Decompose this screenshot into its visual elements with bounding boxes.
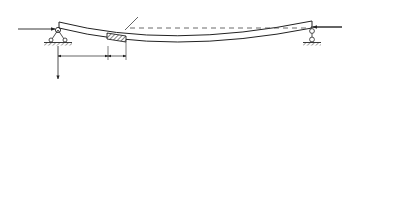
dx-dimension (108, 42, 126, 60)
figure-a (18, 17, 342, 79)
deflected-beam (59, 21, 312, 42)
hatched-element (107, 33, 126, 42)
roller-support-right (303, 29, 321, 46)
x-dimension (58, 46, 108, 60)
beam-vibration-diagram (0, 0, 394, 219)
